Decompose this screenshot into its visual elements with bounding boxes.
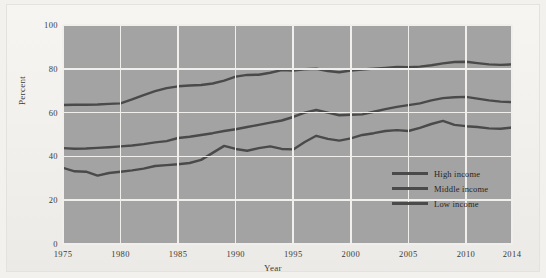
legend-line-swatch-high-income bbox=[392, 172, 428, 175]
legend-label-low-income: Low income bbox=[434, 199, 479, 209]
gridline-vertical bbox=[408, 25, 410, 244]
x-axis-tick-label: 2014 bbox=[503, 249, 522, 259]
line-chart-figure: 100806040200 Percent 1975198019851990199… bbox=[0, 0, 546, 278]
gridline-vertical bbox=[62, 25, 64, 244]
y-axis-tick-labels: 100806040200 bbox=[0, 25, 58, 244]
gridline-horizontal bbox=[63, 156, 512, 158]
x-axis-label: Year bbox=[0, 263, 546, 273]
x-axis-tick-label: 1980 bbox=[111, 249, 130, 259]
y-axis-label: Percent bbox=[17, 76, 27, 105]
legend-item-middle-income: Middle income bbox=[392, 181, 510, 196]
x-axis-tick-label: 1995 bbox=[284, 249, 303, 259]
plot-area bbox=[63, 25, 512, 244]
legend-line-swatch-middle-income bbox=[392, 187, 428, 190]
x-axis-tick-labels: 197519801985199019952000200520102014 bbox=[63, 249, 512, 263]
series-lines-group bbox=[63, 25, 512, 244]
legend-item-high-income: High income bbox=[392, 166, 510, 181]
y-axis-tick-label: 80 bbox=[6, 64, 58, 74]
x-axis-tick-label: 1975 bbox=[54, 249, 73, 259]
series-line-middle-income bbox=[63, 97, 512, 149]
legend-line-swatch-low-income bbox=[392, 202, 428, 205]
x-axis-tick-label: 1990 bbox=[226, 249, 245, 259]
gridline-vertical bbox=[177, 25, 179, 244]
gridline-vertical bbox=[120, 25, 122, 244]
gridline-horizontal bbox=[63, 243, 512, 245]
legend-item-low-income: Low income bbox=[392, 196, 510, 211]
x-axis-tick-label: 2010 bbox=[457, 249, 476, 259]
gridline-horizontal bbox=[63, 112, 512, 114]
gridline-horizontal bbox=[63, 24, 512, 26]
y-axis-tick-label: 20 bbox=[6, 195, 58, 205]
y-axis-tick-label: 60 bbox=[6, 108, 58, 118]
gridline-vertical bbox=[235, 25, 237, 244]
y-axis-tick-label: 100 bbox=[6, 20, 58, 30]
y-axis-tick-label: 0 bbox=[6, 239, 58, 249]
x-axis-tick-label: 2005 bbox=[399, 249, 418, 259]
legend-label-high-income: High income bbox=[434, 169, 480, 179]
gridline-horizontal bbox=[63, 68, 512, 70]
gridline-vertical bbox=[292, 25, 294, 244]
chart-legend: High income Middle income Low income bbox=[392, 166, 510, 211]
legend-label-middle-income: Middle income bbox=[434, 184, 488, 194]
x-axis-tick-label: 2000 bbox=[342, 249, 361, 259]
gridline-vertical bbox=[350, 25, 352, 244]
gridline-vertical bbox=[465, 25, 467, 244]
x-axis-tick-label: 1985 bbox=[169, 249, 188, 259]
y-axis-tick-label: 40 bbox=[6, 151, 58, 161]
chart-page: 100806040200 Percent 1975198019851990199… bbox=[0, 0, 546, 278]
gridline-vertical bbox=[511, 25, 513, 244]
